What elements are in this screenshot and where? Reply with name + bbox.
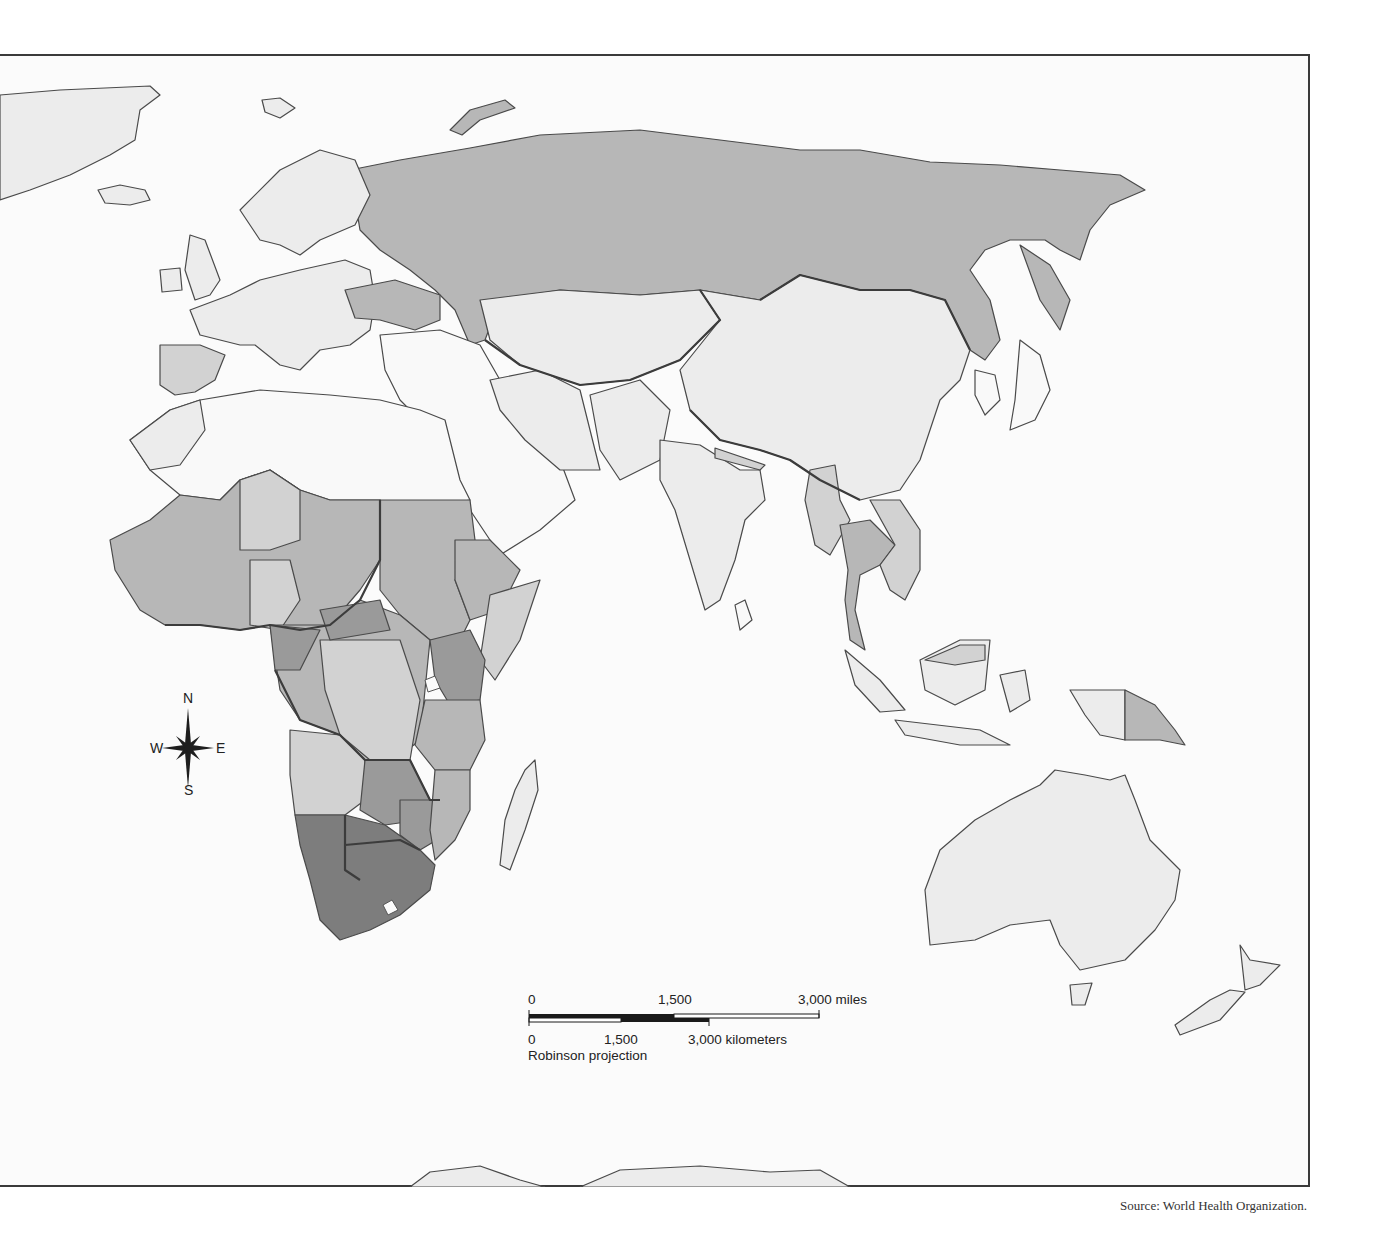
region-scandinavia — [240, 150, 370, 255]
region-papua-new-guinea — [1125, 690, 1185, 745]
region-antarctica — [410, 1166, 545, 1187]
scale-miles-1500: 1,500 — [658, 992, 692, 1007]
region-iceland — [98, 185, 150, 205]
region-thailand — [840, 520, 895, 650]
compass-star-icon — [150, 690, 240, 800]
region-indonesia — [845, 650, 905, 712]
region-australia — [925, 770, 1180, 970]
scale-miles-3000: 3,000 miles — [798, 992, 867, 1007]
region-greenland — [0, 86, 160, 200]
scale-miles-0: 0 — [528, 992, 536, 1007]
region-new-zealand — [1240, 945, 1280, 990]
scale-km-1500: 1,500 — [604, 1032, 638, 1047]
scale-km-0: 0 — [528, 1032, 536, 1047]
region-iberia — [160, 345, 225, 395]
projection-label: Robinson projection — [528, 1048, 647, 1063]
compass-rose: N W E S — [150, 690, 240, 800]
scale-bar: 0 1,500 3,000 miles 0 1,500 3,000 kilome… — [528, 992, 828, 1072]
region-madagascar — [500, 760, 538, 870]
scale-km-3000: 3,000 kilometers — [688, 1032, 787, 1047]
scale-bar-graphic — [528, 1008, 828, 1028]
source-caption: Source: World Health Organization. — [1120, 1198, 1307, 1214]
